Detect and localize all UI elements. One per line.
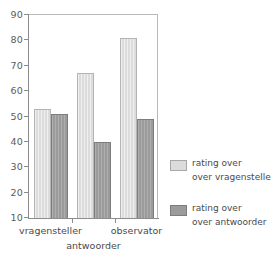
y-axis-tick-label: 90 (1, 10, 23, 20)
bar-series1-group2[interactable] (77, 73, 94, 218)
bar-series1-group1[interactable] (34, 109, 51, 218)
bar-series2-group3[interactable] (137, 119, 154, 218)
x-axis-title: antwoorder (28, 241, 159, 251)
y-axis-tick-label: 30 (1, 162, 23, 172)
bar-series2-group1[interactable] (51, 114, 68, 218)
bar-series1-group3[interactable] (120, 38, 137, 218)
x-axis-tick (72, 219, 73, 223)
y-axis-tick-label: 70 (1, 61, 23, 71)
x-axis-baseline (28, 218, 159, 219)
legend-swatch-light-icon (170, 160, 187, 171)
bar-chart: 908070605040302010 vragenstellerobservat… (0, 0, 271, 267)
x-axis-tick (115, 219, 116, 223)
y-axis-tick-label: 10 (1, 213, 23, 223)
bar-series2-group2[interactable] (94, 142, 111, 218)
legend-swatch-dark-icon (170, 205, 187, 216)
bars-layer (29, 15, 158, 218)
x-axis-category-label: vragensteller (15, 226, 86, 236)
y-axis-tick-label: 40 (1, 137, 23, 147)
legend-label-line2: over vragensteller (192, 172, 271, 183)
legend-label-line1: rating over (192, 158, 242, 169)
x-axis-category-label: observator (101, 226, 172, 236)
legend-label-line1: rating over (192, 203, 242, 214)
y-axis-tick-label: 80 (1, 35, 23, 45)
y-axis-tick-label: 20 (1, 188, 23, 198)
y-axis-tick-label: 50 (1, 112, 23, 122)
legend-label-line2: over antwoorder (192, 217, 267, 228)
y-axis-tick-label: 60 (1, 86, 23, 96)
